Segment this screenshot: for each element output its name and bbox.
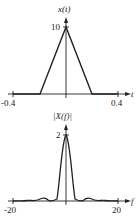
top-x-tick-left-label: -0.4 (1, 99, 15, 108)
bottom-plot (8, 124, 131, 205)
top-y-label-text: x(t) (58, 4, 71, 14)
figure-canvas (0, 0, 138, 219)
top-plot (8, 17, 131, 98)
top-x-tick-right-label: 0.4 (111, 99, 122, 108)
top-y-label: x(t) (58, 5, 71, 14)
bottom-y-tick-label: 2 (56, 131, 61, 140)
sinc-squared-curve (13, 135, 118, 201)
top-y-arrow-icon (64, 17, 68, 23)
triangle-pulse (13, 27, 118, 94)
bottom-y-arrow-icon (64, 124, 68, 130)
bottom-x-tick-left-label: -20 (4, 206, 16, 215)
bottom-x-label: f (131, 197, 134, 206)
top-x-label: t (131, 90, 134, 99)
bottom-y-label: |X(f)| (53, 112, 72, 121)
top-y-tick-label: 10 (51, 23, 60, 32)
bottom-x-tick-right-label: 20 (112, 206, 121, 215)
